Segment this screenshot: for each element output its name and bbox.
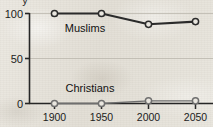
- gridlines: [29, 14, 213, 59]
- clipped-glyph-text: y: [22, 0, 28, 6]
- data-point-muslims-1900: [51, 10, 57, 16]
- y-tick-label-0: 0: [17, 98, 23, 110]
- x-tick-marks: [55, 104, 196, 110]
- series-label-muslims: Muslims: [65, 22, 106, 34]
- y-tick-labels: 100 50 0: [5, 8, 23, 110]
- x-tick-labels: 1900 1950 2000 2050: [43, 111, 208, 123]
- chart-screenshot: y 100 50 0 1: [0, 0, 213, 127]
- data-point-muslims-2000: [145, 21, 151, 27]
- y-tick-label-100: 100: [5, 8, 23, 20]
- data-point-muslims-2050: [192, 19, 198, 25]
- data-point-christians-1950: [98, 100, 104, 106]
- series-christians: [51, 98, 198, 107]
- data-point-christians-1900: [51, 100, 57, 106]
- clipped-text-fragment: y: [22, 0, 28, 6]
- x-tick-label-2050: 2050: [184, 111, 208, 123]
- x-tick-label-1950: 1950: [90, 111, 114, 123]
- series-label-christians: Christians: [66, 82, 115, 94]
- x-tick-label-2000: 2000: [137, 111, 161, 123]
- line-chart-plot: y 100 50 0 1: [0, 0, 213, 127]
- y-tick-label-50: 50: [11, 53, 23, 65]
- data-point-christians-2000: [145, 98, 151, 104]
- x-tick-label-1900: 1900: [43, 111, 67, 123]
- data-point-christians-2050: [192, 98, 198, 104]
- data-point-muslims-1950: [98, 10, 104, 16]
